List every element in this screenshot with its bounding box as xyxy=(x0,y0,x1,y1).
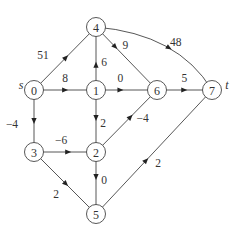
edge-weight-1-6: 0 xyxy=(118,72,124,84)
node-3: 3 xyxy=(25,143,44,162)
node-5: 5 xyxy=(87,205,106,224)
edge-weight-2-6: −4 xyxy=(136,112,148,124)
node-label: 4 xyxy=(93,21,99,35)
arrowhead-1-2 xyxy=(93,115,98,121)
node-6: 6 xyxy=(148,81,167,100)
node-2: 2 xyxy=(87,143,106,162)
edge-weight-6-7: 5 xyxy=(181,72,187,84)
edge-weight-4-6: 9 xyxy=(122,39,128,51)
node-label: 7 xyxy=(209,84,215,98)
edge-weight-5-7: 2 xyxy=(155,157,161,169)
arrowhead-0-1 xyxy=(62,87,68,92)
arrowheads xyxy=(31,43,187,186)
arrowhead-0-3 xyxy=(31,118,36,124)
edge-weight-3-2: −6 xyxy=(55,134,67,146)
node-4: 4 xyxy=(87,18,106,37)
node-1: 1 xyxy=(87,81,106,100)
sink-label: t xyxy=(225,78,229,92)
graph-diagram: 0s1234567t 518−46029485−4−6202 xyxy=(0,0,242,238)
edge-weight-0-3: −4 xyxy=(6,118,18,130)
edge-5-7 xyxy=(96,90,212,214)
node-label: 0 xyxy=(31,84,37,98)
source-label: s xyxy=(19,78,24,92)
edge-weight-1-4: 6 xyxy=(101,56,107,68)
arrowhead-6-7 xyxy=(181,87,187,92)
node-label: 5 xyxy=(93,208,99,222)
node-label: 1 xyxy=(93,84,99,98)
edge-weight-0-1: 8 xyxy=(62,72,68,84)
arrowhead-2-5 xyxy=(93,174,98,180)
node-0: 0s xyxy=(19,78,44,100)
arrowhead-1-6 xyxy=(117,87,123,92)
edge-weight-2-5: 0 xyxy=(101,174,107,186)
node-label: 3 xyxy=(31,146,37,160)
arrowhead-3-2 xyxy=(65,149,71,154)
edge-weight-4-7: 48 xyxy=(170,36,182,48)
edge-weight-3-5: 2 xyxy=(53,188,59,200)
node-label: 6 xyxy=(154,84,160,98)
edge-weight-1-2: 2 xyxy=(100,117,106,129)
node-label: 2 xyxy=(93,146,99,160)
edges xyxy=(34,27,212,214)
edge-weight-0-4: 51 xyxy=(37,49,49,61)
arrowhead-1-4 xyxy=(93,62,98,68)
